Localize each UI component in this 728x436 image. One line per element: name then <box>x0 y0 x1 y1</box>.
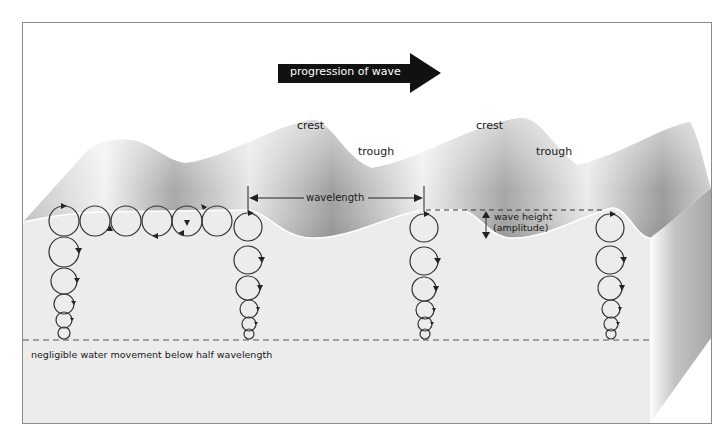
trough-label-1: trough <box>358 146 394 157</box>
wave-height-label: wave height <box>494 212 552 222</box>
trough-label-2: trough <box>536 146 572 157</box>
ocean-wave-diagram: progression of wave crest trough crest t… <box>0 0 728 436</box>
amplitude-label: (amplitude) <box>493 223 548 233</box>
wavelength-label: wavelength <box>306 193 364 203</box>
crest-label-2: crest <box>476 120 503 131</box>
water-front-face <box>23 208 650 423</box>
crest-label-1: crest <box>297 120 324 131</box>
depth-note-label: negligible water movement below half wav… <box>31 350 272 360</box>
progression-label: progression of wave <box>290 66 401 77</box>
